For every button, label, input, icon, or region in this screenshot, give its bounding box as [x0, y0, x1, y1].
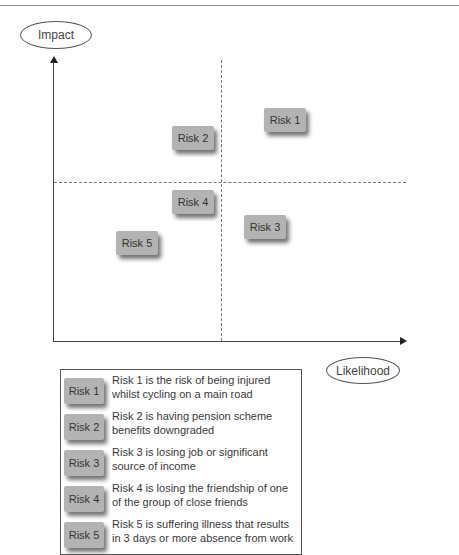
legend-item: Risk 3 Risk 3 is losing job or significa…: [61, 445, 301, 481]
legend-risk-2-box: Risk 2: [64, 414, 104, 440]
legend-risk-1-label: Risk 1: [69, 385, 100, 397]
risk-3-marker-label: Risk 3: [250, 221, 281, 233]
legend-risk-1-description: Risk 1 is the risk of being injured whil…: [112, 373, 300, 401]
risk-5-marker-label: Risk 5: [122, 237, 153, 249]
risk-4-marker-label: Risk 4: [178, 196, 209, 208]
x-axis-arrow-icon: [400, 337, 407, 345]
legend-item: Risk 5 Risk 5 is suffering illness that …: [61, 517, 301, 553]
likelihood-axis-label: Likelihood: [326, 357, 400, 384]
y-axis: [53, 62, 54, 342]
legend-risk-3-box: Risk 3: [64, 450, 104, 476]
legend-item: Risk 4 Risk 4 is losing the friendship o…: [61, 481, 301, 517]
legend-risk-3-label: Risk 3: [69, 457, 100, 469]
risk-2-marker-label: Risk 2: [178, 132, 209, 144]
vertical-quadrant-divider: [221, 60, 222, 341]
risk-4-marker: Risk 4: [172, 190, 214, 214]
risk-1-marker: Risk 1: [264, 108, 306, 132]
risk-2-marker: Risk 2: [172, 126, 214, 150]
legend-risk-1-box: Risk 1: [64, 378, 104, 404]
top-rule: [0, 5, 459, 6]
x-axis: [53, 341, 401, 342]
legend-risk-2-description: Risk 2 is having pension scheme benefits…: [112, 409, 300, 437]
horizontal-quadrant-divider: [54, 182, 406, 183]
legend-risk-4-box: Risk 4: [64, 486, 104, 512]
likelihood-label-text: Likelihood: [336, 364, 390, 378]
legend-risk-4-description: Risk 4 is losing the friendship of one o…: [112, 481, 300, 509]
risk-5-marker: Risk 5: [116, 231, 158, 255]
legend-risk-4-label: Risk 4: [69, 493, 100, 505]
legend-risk-2-label: Risk 2: [69, 421, 100, 433]
legend-risk-3-description: Risk 3 is losing job or significant sour…: [112, 445, 300, 473]
legend-risk-5-description: Risk 5 is suffering illness that results…: [112, 517, 300, 545]
risk-1-marker-label: Risk 1: [270, 114, 301, 126]
legend-item: Risk 1 Risk 1 is the risk of being injur…: [61, 373, 301, 409]
y-axis-arrow-icon: [50, 56, 58, 63]
impact-label-text: Impact: [38, 28, 74, 42]
impact-axis-label: Impact: [20, 21, 92, 49]
risk-legend: Risk 1 Risk 1 is the risk of being injur…: [60, 369, 302, 555]
risk-3-marker: Risk 3: [244, 215, 286, 239]
legend-risk-5-label: Risk 5: [69, 529, 100, 541]
legend-risk-5-box: Risk 5: [64, 522, 104, 548]
legend-item: Risk 2 Risk 2 is having pension scheme b…: [61, 409, 301, 445]
